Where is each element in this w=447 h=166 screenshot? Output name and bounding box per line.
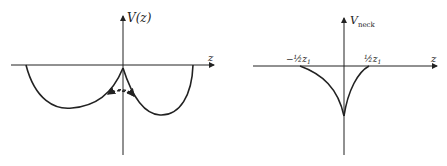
right-well-curve bbox=[123, 65, 193, 115]
right-y-label: Vneck bbox=[350, 14, 376, 29]
left-well-curve bbox=[26, 65, 123, 108]
neck-right-curve bbox=[344, 66, 369, 116]
right-diagram: Vneck z −½z1 ½z1 bbox=[253, 14, 437, 155]
right-x-label: z bbox=[430, 53, 437, 64]
figure-canvas: V(z) z Vneck z −½z1 ½z1 bbox=[0, 0, 447, 166]
left-mark-label: −½z1 bbox=[286, 54, 311, 65]
left-y-label: V(z) bbox=[127, 11, 152, 25]
right-mark-label: ½z1 bbox=[364, 54, 381, 65]
left-x-label: z bbox=[207, 52, 214, 63]
left-diagram: V(z) z bbox=[11, 11, 214, 155]
neck-left-curve bbox=[300, 66, 344, 116]
tunneling-dashed-arrow bbox=[108, 91, 134, 96]
